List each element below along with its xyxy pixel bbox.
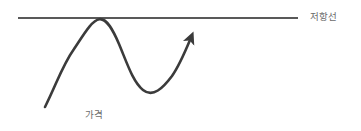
price-curve-label: 가격 [85,110,103,120]
diagram-canvas [0,0,361,131]
price-curve [45,19,190,107]
resistance-line-diagram: 저항선 가격 [0,0,361,131]
resistance-line-label: 저항선 [310,12,338,22]
